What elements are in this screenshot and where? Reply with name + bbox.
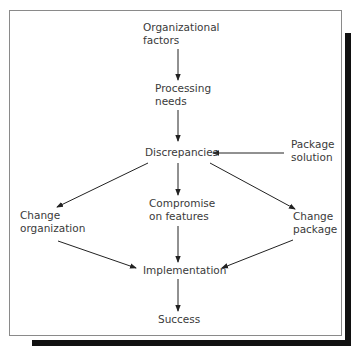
node-label-line2: on features	[149, 210, 215, 223]
node-label-line2: factors	[143, 34, 219, 47]
node-label-line1: Success	[158, 313, 200, 326]
node-processing-needs: Processing needs	[155, 82, 211, 107]
node-label-line2: organization	[20, 222, 85, 235]
node-organizational-factors: Organizational factors	[143, 21, 219, 46]
arrow-discrepancies-to-change-org	[57, 163, 148, 207]
node-label-line1: Change	[293, 210, 337, 223]
node-success: Success	[158, 313, 200, 326]
arrow-discrepancies-to-change-package	[210, 163, 295, 209]
node-label-line1: Implementation	[143, 264, 226, 277]
node-discrepancies: Discrepancies	[145, 146, 218, 159]
arrows-layer	[0, 0, 358, 351]
node-compromise-features: Compromise on features	[149, 197, 215, 222]
node-label-line1: Package	[291, 138, 335, 151]
node-label-line1: Change	[20, 209, 85, 222]
node-label-line2: solution	[291, 151, 335, 164]
node-package-solution: Package solution	[291, 138, 335, 163]
node-implementation: Implementation	[143, 264, 226, 277]
node-label-line1: Compromise	[149, 197, 215, 210]
node-change-organization: Change organization	[20, 209, 85, 234]
arrow-change-package-to-implementation	[222, 240, 293, 268]
node-label-line2: needs	[155, 95, 211, 108]
node-label-line1: Organizational	[143, 21, 219, 34]
node-label-line1: Discrepancies	[145, 146, 218, 159]
arrow-change-org-to-implementation	[58, 241, 136, 268]
node-label-line2: package	[293, 223, 337, 236]
node-label-line1: Processing	[155, 82, 211, 95]
node-change-package: Change package	[293, 210, 337, 235]
